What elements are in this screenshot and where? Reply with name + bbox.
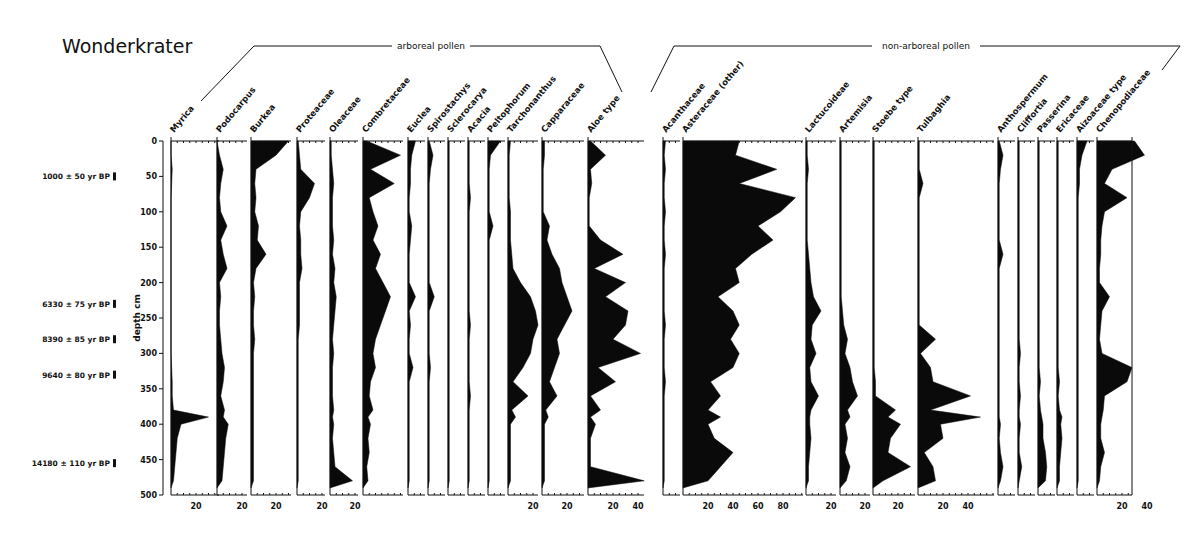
percent-tick-label: 20 [236,502,248,511]
percent-tick-label: 20 [892,502,904,511]
taxon-label: Tulbaghia [915,92,953,134]
pollen-diagram: Wonderkrater arboreal pollennon-arboreal… [0,0,1200,534]
pollen-curve [542,141,572,488]
pollen-curve [683,141,796,488]
depth-tick-label: 500 [140,491,157,500]
percent-tick-label: 40 [962,502,974,511]
taxon-column: Combretaceae [360,75,412,495]
depth-tick-label: 100 [140,208,157,217]
depth-tick-label: 300 [140,349,157,358]
percent-tick-label: 20 [561,502,573,511]
percent-tick-label: 20 [825,502,837,511]
percent-tick-label: 20 [190,502,202,511]
taxon-label: Aloe type [585,93,622,134]
pollen-curve [1038,141,1047,488]
percent-tick-label: 20 [702,502,714,511]
percent-tick-label: 20 [316,502,328,511]
pollen-curve [1057,141,1062,488]
percent-tick-label: 20 [270,502,282,511]
radiocarbon-dates: 1000 ± 50 yr BP6330 ± 75 yr BP8390 ± 85 … [32,172,116,468]
pollen-curve [408,141,416,488]
pollen-curve [297,141,315,488]
depth-tick-label: 0 [151,137,157,146]
percent-tick-label: 20 [859,502,871,511]
depth-tick-label: 400 [140,420,157,429]
percent-tick-label: 80 [777,502,789,511]
percent-tick-label: 20 [527,502,539,511]
taxon-label: Stoebe type [870,83,915,134]
percent-tick-label: 20 [1116,502,1128,511]
pollen-curve [588,141,644,488]
date-marker [113,371,116,379]
percent-tick-label: 40 [632,502,644,511]
radiocarbon-date-label: 9640 ± 80 yr BP [42,371,110,380]
pollen-curve [251,141,289,488]
depth-tick-label: 450 [140,456,157,465]
radiocarbon-date-label: 8390 ± 85 yr BP [42,335,110,344]
percent-tick-label: 40 [727,502,739,511]
date-marker [113,300,116,308]
taxon-column: 20Myrica [168,103,219,511]
taxon-label: Oleaceae [327,94,363,134]
group-label-non-arboreal: non-arboreal pollen [882,41,970,51]
taxon-column: 20Artemisia [837,92,874,511]
taxon-column: Ericaceae [1054,92,1091,495]
arboreal-bracket [201,46,622,101]
percent-tick-label: 20 [349,502,361,511]
pollen-curve [171,141,209,488]
depth-tick-label: 250 [140,314,157,323]
pollen-curve [873,141,911,488]
taxon-column: 2040Aloe type [585,93,644,511]
percent-tick-label: 40 [1141,502,1153,511]
taxon-column: 20Burkea [248,102,291,511]
taxon-column: 20Stoebe type [870,83,915,511]
taxon-column: 2040Chenopodiaceae [1094,67,1153,511]
pollen-curve [998,141,1003,488]
taxon-label: Combretaceae [360,75,412,135]
depth-tick-label: 200 [140,279,157,288]
pollen-curve [428,141,434,488]
taxon-column: Sclerocarya [445,85,489,495]
pollen-curve [508,141,538,488]
taxon-columns: 20Myrica20Podocarpus20Burkea20Proteaceae… [168,59,1153,511]
date-marker [113,172,116,180]
pollen-curve [217,141,228,488]
pollen-curve [1018,141,1022,488]
depth-tick-label: 50 [146,172,158,181]
taxon-column: 2040Tulbaghia [915,92,994,511]
pollen-curve [1097,141,1145,488]
taxon-column: Passerina [1035,92,1073,495]
pollen-curve [840,141,858,488]
percent-tick-label: 20 [607,502,619,511]
radiocarbon-date-label: 6330 ± 75 yr BP [42,300,110,309]
pollen-curve [918,141,981,488]
taxon-column: 20Oleaceae [327,94,363,511]
pollen-curve [363,141,401,488]
group-label-arboreal: arboreal pollen [397,41,465,51]
radiocarbon-date-label: 1000 ± 50 yr BP [42,172,110,181]
date-marker [113,459,116,467]
pollen-curve [488,141,501,488]
site-title: Wonderkrater [62,35,192,57]
date-marker [113,335,116,343]
pollen-curve [330,141,353,488]
taxon-column: Cliffortia [1015,96,1050,495]
depth-tick-label: 150 [140,243,157,252]
taxon-column: 20Capparaceae [539,80,587,511]
taxon-label: Myrica [168,103,196,134]
depth-axis: depth cm 050100150200250300350400450500 [132,137,163,500]
pollen-curve [1077,141,1087,488]
taxon-column: Aizoaceae type [1074,72,1129,495]
percent-tick-label: 20 [937,502,949,511]
depth-tick-label: 350 [140,385,157,394]
percent-tick-label: 60 [752,502,764,511]
pollen-curve [806,141,821,488]
taxon-column: 20406080Asteraceae (other) [680,59,803,511]
radiocarbon-date-label: 14180 ± 110 yr BP [32,459,111,468]
taxon-label: Burkea [248,102,277,134]
